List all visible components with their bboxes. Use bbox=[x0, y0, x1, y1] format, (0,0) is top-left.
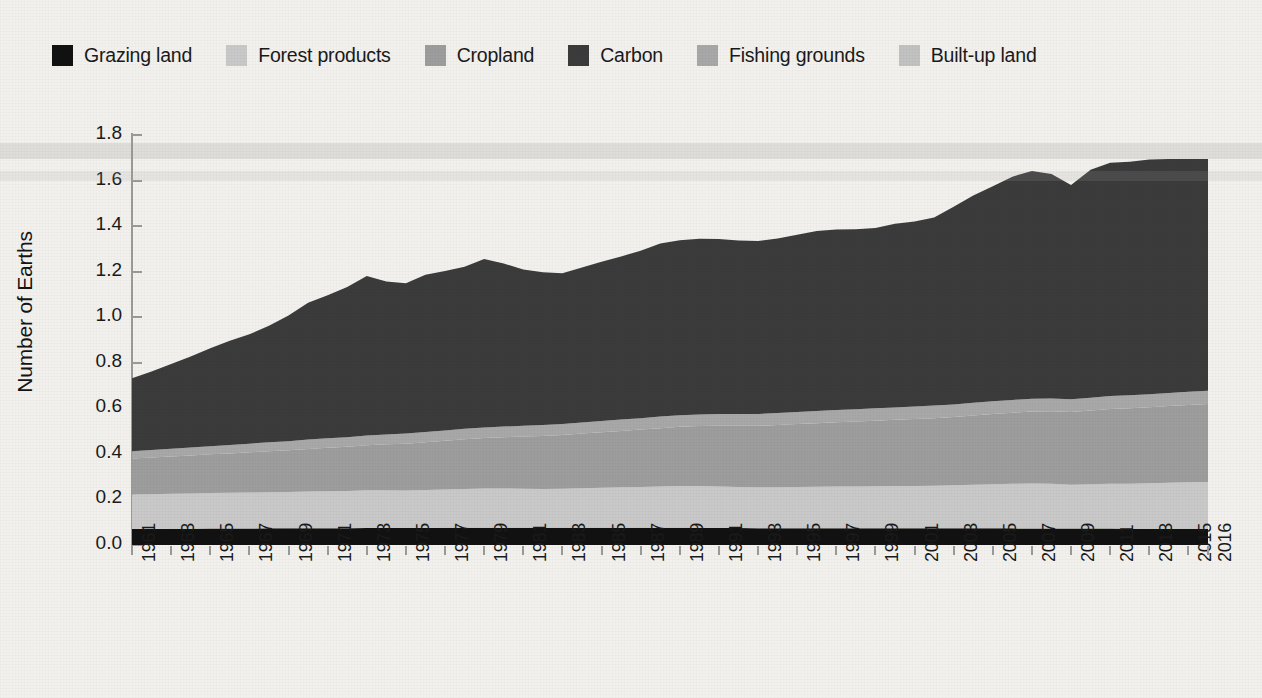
x-tick-label: 2013 bbox=[1156, 523, 1177, 562]
x-tick-label: 1999 bbox=[882, 523, 903, 562]
x-tick-mark bbox=[405, 546, 407, 555]
x-tick-mark bbox=[953, 546, 955, 555]
x-tick-label: 1977 bbox=[452, 523, 473, 562]
x-tick-mark bbox=[679, 546, 681, 555]
x-tick-label: 1975 bbox=[413, 523, 434, 562]
x-tick-mark bbox=[992, 546, 994, 555]
x-tick-mark bbox=[248, 546, 250, 555]
x-tick-mark bbox=[366, 546, 368, 555]
x-tick-mark bbox=[640, 546, 642, 555]
x-tick-label: 1987 bbox=[648, 523, 669, 562]
x-tick-label: 1981 bbox=[530, 523, 551, 562]
x-tick-label: 1973 bbox=[374, 523, 395, 562]
ecological-footprint-chart: Grazing landForest productsCroplandCarbo… bbox=[0, 0, 1262, 698]
x-tick-mark bbox=[1031, 546, 1033, 555]
x-tick-mark bbox=[288, 546, 290, 555]
x-tick-mark bbox=[601, 546, 603, 555]
x-tick-mark bbox=[209, 546, 211, 555]
x-tick-mark bbox=[444, 546, 446, 555]
x-tick-mark bbox=[561, 546, 563, 555]
x-tick-label: 2001 bbox=[922, 523, 943, 562]
x-tick-label: 2007 bbox=[1039, 523, 1060, 562]
x-tick-mark bbox=[522, 546, 524, 555]
x-tick-mark bbox=[757, 546, 759, 555]
x-tick-mark bbox=[1187, 546, 1189, 555]
x-tick-mark bbox=[1070, 546, 1072, 555]
x-tick-label: 1991 bbox=[726, 523, 747, 562]
x-tick-label: 2009 bbox=[1078, 523, 1099, 562]
x-tick-mark bbox=[131, 546, 133, 555]
x-tick-mark bbox=[1109, 546, 1111, 555]
x-tick-label: 1965 bbox=[217, 523, 238, 562]
x-tick-label: 1983 bbox=[569, 523, 590, 562]
x-tick-mark bbox=[796, 546, 798, 555]
x-tick-label: 2005 bbox=[1000, 523, 1021, 562]
x-tick-mark bbox=[1148, 546, 1150, 555]
x-tick-mark bbox=[483, 546, 485, 555]
x-tick-mark bbox=[914, 546, 916, 555]
x-tick-label: 1993 bbox=[765, 523, 786, 562]
x-tick-label: 1961 bbox=[139, 523, 160, 562]
x-tick-label: 2011 bbox=[1117, 524, 1138, 562]
x-tick-label: 2015 bbox=[1195, 523, 1216, 562]
x-tick-label: 2016 bbox=[1215, 523, 1236, 562]
x-tick-label: 1997 bbox=[843, 523, 864, 562]
x-tick-mark bbox=[170, 546, 172, 555]
x-tick-label: 1967 bbox=[256, 523, 277, 562]
x-tick-mark bbox=[327, 546, 329, 555]
x-tick-label: 1995 bbox=[804, 523, 825, 562]
x-tick-mark bbox=[835, 546, 837, 555]
x-tick-label: 1971 bbox=[335, 523, 356, 562]
x-tick-mark bbox=[718, 546, 720, 555]
x-tick-label: 2003 bbox=[961, 523, 982, 562]
x-tick-label: 1969 bbox=[296, 523, 317, 562]
x-tick-mark bbox=[1207, 546, 1209, 555]
x-tick-label: 1989 bbox=[687, 523, 708, 562]
x-tick-label: 1985 bbox=[609, 523, 630, 562]
x-tick-label: 1979 bbox=[491, 523, 512, 562]
x-axis-ticks: 1961196319651967196919711973197519771979… bbox=[0, 0, 1262, 698]
x-tick-label: 1963 bbox=[178, 523, 199, 562]
x-tick-mark bbox=[874, 546, 876, 555]
